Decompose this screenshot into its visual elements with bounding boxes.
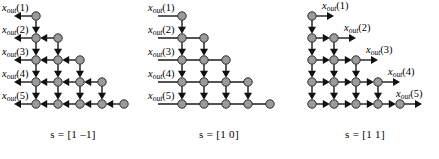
arrowhead-d: [54, 49, 62, 56]
arrowhead-r: [371, 56, 378, 64]
axis-label-xout-2: xout(2): [2, 24, 29, 37]
axis-label-xout-5: xout(5): [148, 90, 175, 103]
graph-node: [54, 100, 62, 108]
graph-node: [352, 100, 360, 108]
arrowhead-d: [222, 71, 230, 78]
arrowhead-r: [393, 78, 400, 86]
graph-node: [352, 56, 360, 64]
arrowhead-d: [32, 93, 40, 100]
axis-label-xout-1: xout(1): [2, 2, 29, 15]
arrowhead-r: [389, 100, 396, 108]
arrowhead-d: [308, 27, 316, 34]
graph-node: [330, 78, 338, 86]
arrowhead-r: [345, 78, 352, 86]
arrowhead-d: [352, 71, 360, 78]
arrowhead-r: [323, 78, 330, 86]
graph-node: [200, 100, 208, 108]
graph-node: [76, 78, 84, 86]
arrowhead-d: [76, 93, 84, 100]
graph-node: [330, 34, 338, 42]
panel-middle: xout(1) xout(2) xout(3) xout(4) xout(5) …: [146, 0, 292, 159]
arrowhead-d: [200, 71, 208, 78]
arrowhead-l: [40, 34, 47, 42]
arrowhead-d: [178, 49, 186, 56]
axis-label-xout-4: xout(4): [388, 66, 415, 79]
arrowhead-d: [54, 93, 62, 100]
graph-node: [308, 100, 316, 108]
caption-panel-left: s = [1 –1]: [0, 128, 146, 140]
graph-node: [222, 56, 230, 64]
axis-label-xout-1: xout(1): [322, 0, 349, 13]
arrowhead-d: [32, 71, 40, 78]
graph-node: [308, 78, 316, 86]
graph-node: [308, 56, 316, 64]
arrowhead-d: [374, 93, 382, 100]
axis-label-xout-1: xout(1): [148, 2, 175, 15]
graph-node: [76, 56, 84, 64]
graph-node: [54, 78, 62, 86]
arrowhead-d: [352, 93, 360, 100]
graph-node: [98, 78, 106, 86]
arrowhead-d: [32, 27, 40, 34]
arrowhead-r: [349, 34, 356, 42]
graph-node: [266, 100, 274, 108]
graph-node: [308, 34, 316, 42]
graph-node: [54, 34, 62, 42]
arrowhead-d: [76, 71, 84, 78]
arrowhead-d: [330, 93, 338, 100]
arrowhead-d: [308, 71, 316, 78]
arrowhead-d: [178, 93, 186, 100]
arrowhead-l: [62, 100, 69, 108]
graph-node: [244, 78, 252, 86]
graph-middle: [146, 0, 292, 128]
graph-node: [98, 100, 106, 108]
graph-node: [178, 100, 186, 108]
graph-node: [222, 100, 230, 108]
axis-label-xout-3: xout(3): [366, 44, 393, 57]
arrowhead-d: [244, 93, 252, 100]
graph-node: [178, 56, 186, 64]
graph-left: [0, 0, 146, 128]
graph-node: [32, 100, 40, 108]
graph-node: [32, 12, 40, 20]
graph-node: [374, 100, 382, 108]
figure-root: xout(1) xout(2) xout(3) xout(4) xout(5) …: [0, 0, 439, 159]
graph-node: [396, 100, 404, 108]
arrowhead-l: [84, 78, 91, 86]
arrowhead-d: [54, 71, 62, 78]
caption-panel-middle: s = [1 0]: [146, 128, 292, 140]
graph-node: [32, 78, 40, 86]
arrowhead-l: [106, 100, 113, 108]
graph-node: [54, 56, 62, 64]
arrowhead-r: [345, 56, 352, 64]
axis-label-xout-3: xout(3): [148, 46, 175, 59]
graph-node: [200, 34, 208, 42]
caption-panel-right: s = [1 1]: [292, 128, 438, 140]
graph-node: [352, 78, 360, 86]
axis-label-xout-5: xout(5): [396, 88, 423, 101]
arrowhead-r: [345, 100, 352, 108]
arrowhead-l: [40, 100, 47, 108]
graph-node: [200, 56, 208, 64]
axis-label-xout-2: xout(2): [148, 24, 175, 37]
arrowhead-l: [40, 56, 47, 64]
arrowhead-l: [62, 78, 69, 86]
arrowhead-d: [222, 93, 230, 100]
graph-node: [178, 34, 186, 42]
graph-node: [308, 12, 316, 20]
graph-node: [244, 100, 252, 108]
axis-label-xout-5: xout(5): [2, 90, 29, 103]
arrowhead-l: [40, 78, 47, 86]
arrowhead-d: [308, 49, 316, 56]
arrowhead-d: [330, 71, 338, 78]
graph-node: [222, 78, 230, 86]
arrowhead-d: [330, 49, 338, 56]
graph-node: [120, 100, 128, 108]
graph-node: [178, 12, 186, 20]
arrowhead-d: [98, 93, 106, 100]
arrowhead-r: [323, 100, 330, 108]
graph-node: [374, 78, 382, 86]
arrowhead-r: [327, 12, 334, 20]
graph-node: [178, 78, 186, 86]
graph-node: [76, 100, 84, 108]
